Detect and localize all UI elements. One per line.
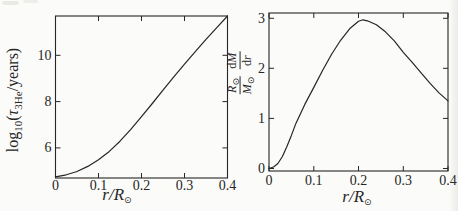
x-tick-label: 0 xyxy=(266,173,273,188)
solar-units-fraction: R⊙M⊙ xyxy=(226,77,255,95)
tau-subscript-3he: 3He xyxy=(12,91,24,109)
x-tick-label: 0.4 xyxy=(219,178,237,193)
y-tick-label: 0 xyxy=(258,161,265,176)
x-tick-label: 0.1 xyxy=(305,173,323,188)
x-tick-label: 0.3 xyxy=(176,178,194,193)
y-tick-label: 2 xyxy=(258,61,265,76)
per-years-text: /years) xyxy=(4,48,21,92)
plots-svg: 00.10.20.30.4681000.10.20.30.40123 xyxy=(0,0,458,211)
x-tick-label: 0.3 xyxy=(395,173,413,188)
right-y-axis-label: R⊙M⊙dMdr xyxy=(226,52,255,95)
tau-symbol: τ xyxy=(4,110,21,116)
x-tick-label: 0.2 xyxy=(133,178,151,193)
y-tick-label: 3 xyxy=(258,11,265,26)
log-function-text: log xyxy=(4,132,21,152)
sun-symbol-icon: ⊙ xyxy=(364,197,372,207)
axis-box-left xyxy=(56,16,228,178)
sun-symbol-icon: ⊙ xyxy=(124,195,132,205)
sun-symbol-icon: ⊙ xyxy=(246,77,256,85)
log-base-subscript: 10 xyxy=(12,121,24,132)
open-paren: ( xyxy=(4,115,21,120)
fraction-denominator: dr xyxy=(241,52,255,70)
y-tick-label: 6 xyxy=(45,140,52,155)
x-tick-label: 0.4 xyxy=(439,173,457,188)
radius-ratio-text: r/R xyxy=(342,187,364,206)
curve-right xyxy=(269,20,448,169)
fraction-numerator: dM xyxy=(226,52,241,70)
figure-canvas: 00.10.20.30.4681000.10.20.30.40123 log10… xyxy=(0,0,458,211)
y-tick-label: 8 xyxy=(45,94,52,109)
dmdr-fraction: dMdr xyxy=(226,52,255,70)
right-x-axis-label: r/R⊙ xyxy=(342,187,371,207)
fraction-denominator: M⊙ xyxy=(241,77,255,95)
y-tick-label: 1 xyxy=(258,111,265,126)
radius-ratio-text: r/R xyxy=(102,185,124,204)
x-tick-label: 0 xyxy=(52,178,59,193)
fraction-numerator: R⊙ xyxy=(226,77,241,95)
left-x-axis-label: r/R⊙ xyxy=(102,185,131,205)
curve-left xyxy=(56,16,228,177)
left-y-axis-label: log10(τ3He/years) xyxy=(4,48,22,152)
y-tick-label: 10 xyxy=(38,48,52,63)
x-tick-label: 0.2 xyxy=(350,173,368,188)
axis-box-right xyxy=(269,13,448,171)
